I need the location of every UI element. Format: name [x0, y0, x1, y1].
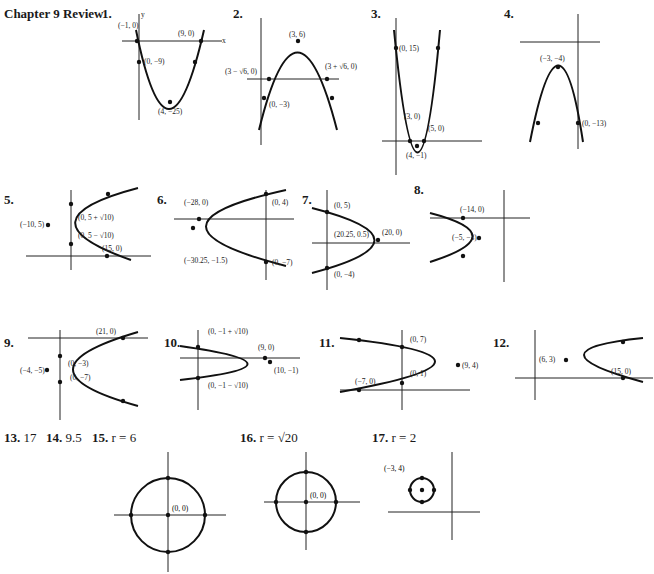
point-label: (0, −7)	[70, 373, 91, 382]
point-label: (9, 0)	[178, 29, 195, 38]
point-label: (−1, 0)	[118, 21, 139, 30]
point-label: (−5, −3)	[452, 233, 477, 242]
problem-number: 1.	[102, 6, 112, 22]
point-label: (0, 5 + √10)	[78, 213, 114, 222]
page-title: Chapter 9 Review	[4, 6, 103, 22]
point-label: (0, 4)	[272, 198, 289, 207]
problem-number: 9.	[4, 335, 14, 351]
answer-15: 15. r = 6	[92, 430, 136, 446]
point-label: (20.25, 0.5)	[334, 230, 369, 239]
point-label: (0, 0)	[172, 504, 189, 513]
graph-8: (−14, 0) (−5, −3)	[430, 190, 550, 294]
point-label: (15, 0)	[102, 244, 122, 253]
graph-10: (0, −1 + √10) (9, 0) (10, −1) (0, −1 − √…	[180, 330, 310, 414]
problem-number: 3.	[371, 6, 381, 22]
point-label: (3 + √6, 0)	[325, 62, 358, 71]
point-label: (0, −9)	[144, 57, 165, 66]
point-label: (−14, 0)	[460, 205, 485, 214]
point-label: (0, 0)	[310, 491, 327, 500]
point-label: (0, −13)	[582, 119, 607, 128]
point-label: (10, −1)	[274, 366, 299, 375]
point-label: (−4, −5)	[20, 366, 45, 375]
graph-1: (−1, 0) (9, 0) (0, −9) (4, −25) xy	[118, 10, 228, 124]
answer-16: 16. r = √20	[240, 430, 298, 446]
problem-number: 2.	[233, 6, 243, 22]
problem-number: 11.	[319, 335, 335, 351]
svg-text:y: y	[141, 10, 145, 19]
point-label: (−30.25, −1.5)	[184, 256, 228, 265]
point-label: (9, 0)	[258, 343, 275, 352]
point-label: (21, 0)	[96, 327, 116, 336]
point-label: (0, −7)	[272, 258, 293, 267]
graph-11: (0, 7) (9, 4) (0, 1) (−7, 0)	[340, 330, 490, 414]
graph-9: (21, 0) (0, −3) (−4, −5) (0, −7)	[18, 330, 158, 424]
circle-graph-17: (−3, 4)	[380, 450, 490, 554]
point-label: (0, 1)	[410, 369, 427, 378]
point-label: (9, 4)	[462, 361, 479, 370]
point-label: (0, −4)	[334, 270, 355, 279]
problem-number: 12.	[493, 335, 509, 351]
point-label: (0, 15)	[399, 44, 419, 53]
point-label: (0, 7)	[410, 335, 427, 344]
point-label: (6, 3)	[539, 355, 556, 364]
point-label: (−28, 0)	[184, 198, 209, 207]
point-label: (−10, 5)	[20, 220, 45, 229]
point-label: (4, −25)	[158, 107, 183, 116]
svg-text:x: x	[222, 36, 226, 45]
point-label: (−7, 0)	[355, 377, 376, 386]
point-label: (−3, 4)	[384, 464, 405, 473]
answer-14: 14. 9.5	[46, 430, 82, 446]
point-label: (5, 0)	[428, 124, 445, 133]
point-label: (0, −1 + √10)	[208, 327, 249, 336]
point-label: (15, 0)	[611, 367, 631, 376]
graph-6: (−28, 0) (0, 4) (0, −7) (−30.25, −1.5)	[166, 190, 306, 284]
graph-3: (0, 15) (3, 0) (5, 0) (4, −1)	[382, 10, 492, 179]
circle-graph-15: (0, 0)	[110, 450, 230, 574]
graph-5: (−10, 5) (0, 5 + √10) (0, 5 − √10) (15, …	[16, 190, 156, 274]
graph-2: (3, 6) (3 − √6, 0) (3 + √6, 0) (0, −3)	[247, 10, 357, 154]
answer-17: 17. r = 2	[372, 430, 416, 446]
point-label: (3, 0)	[404, 112, 421, 121]
point-label: (0, 5 − √10)	[78, 231, 114, 240]
circle-graph-16: (0, 0)	[260, 450, 370, 554]
point-label: (0, −3)	[68, 359, 89, 368]
problem-number: 5.	[4, 192, 14, 208]
graph-4: (−3, −4) (0, −13)	[520, 14, 630, 158]
point-label: (0, −1 − √10)	[208, 381, 249, 390]
point-label: (−3, −4)	[540, 54, 565, 63]
point-label: (0, 5)	[334, 201, 351, 210]
point-label: (3, 6)	[289, 30, 306, 39]
point-label: (20, 0)	[382, 228, 402, 237]
problem-number: 4.	[504, 6, 514, 22]
graph-12: (6, 3) (15, 0)	[515, 330, 654, 409]
point-label: (4, −1)	[406, 151, 427, 160]
problem-number: 10.	[164, 335, 180, 351]
answer-13: 13. 17	[4, 430, 37, 446]
point-label: (0, −3)	[269, 100, 290, 109]
point-label: (3 − √6, 0)	[225, 67, 258, 76]
